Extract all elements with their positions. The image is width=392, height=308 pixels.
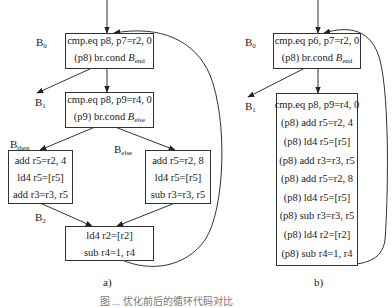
b0-to-b1-arrow-a bbox=[37, 68, 92, 93]
instr: ld4 r5=[r5] bbox=[155, 169, 201, 186]
instr: (p8) add r3=r3, r5 bbox=[279, 152, 354, 171]
instr: (p8) sub r3=r3, r5 bbox=[280, 207, 355, 226]
instr: cmp.eq p8, p9=r4, 0 bbox=[67, 91, 152, 108]
instr: cmp.eq p8, p9=r4, 0 bbox=[275, 96, 360, 115]
label-belse-a: Belse bbox=[114, 143, 132, 157]
block-b0-a: cmp.eq p8, p7=r2, 0 (p8) br.cond Bend bbox=[65, 33, 154, 69]
instr: sub r4=1, r4 bbox=[84, 244, 135, 261]
block-then-a: add r5=r2, 4 ld4 r5=[r5] add r3=r3, r5 bbox=[8, 150, 73, 204]
instr: (p8) add r5=r2, 4 bbox=[281, 114, 353, 133]
caption-a: a) bbox=[103, 276, 112, 288]
branch-instr: (p8) br.cond Bend bbox=[282, 49, 352, 70]
block-b2-a: ld4 r2=[r2] sub r4=1, r4 bbox=[65, 226, 154, 261]
block-cond-a: cmp.eq p8, p9=r4, 0 (p9) br.cond Belse bbox=[65, 92, 154, 128]
instr: add r3=r3, r5 bbox=[13, 186, 68, 203]
cond-to-then-arrow-a bbox=[40, 127, 95, 150]
instr: cmp.eq p8, p7=r2, 0 bbox=[67, 32, 152, 49]
instr: (p8) ld4 r5=[r5] bbox=[284, 133, 351, 152]
instr: ld4 r5=[r5] bbox=[17, 169, 63, 186]
label-b0-a: B0 bbox=[36, 36, 47, 50]
block-body-b: cmp.eq p8, p9=r4, 0 (p8) add r5=r2, 4 (p… bbox=[276, 93, 358, 266]
then-to-b2-arrow-a bbox=[40, 203, 92, 226]
else-to-b2-arrow-a bbox=[117, 203, 175, 226]
branch-instr: (p8) br.cond Bend bbox=[74, 49, 144, 70]
block-else-a: add r5=r2, 8 ld4 r5=[r5] sub r3=r3, r5 bbox=[145, 150, 211, 204]
label-b2-a: B2 bbox=[35, 211, 46, 225]
instr: add r5=r2, 4 bbox=[15, 152, 67, 169]
branch-instr: (p9) br.cond Belse bbox=[74, 108, 145, 129]
instr: (p8) add r5=r2, 8 bbox=[281, 170, 353, 189]
instr: (p8) sub r4=1, r4 bbox=[281, 245, 352, 264]
caption-b: b) bbox=[314, 276, 323, 288]
figure-caption: 图 ... 优化前后的循环代码对比 bbox=[100, 293, 233, 308]
block-b0-b: cmp.eq p6, p7=r2, 0 (p8) br.cond Bend bbox=[273, 33, 361, 69]
label-b1-b: B1 bbox=[245, 100, 256, 114]
label-b1-a: B1 bbox=[35, 96, 46, 110]
instr: (p8) ld4 r2=[r2] bbox=[284, 226, 351, 245]
instr: ld4 r2=[r2] bbox=[86, 227, 132, 244]
instr: (p8) ld4 r5=[r5] bbox=[284, 189, 351, 208]
instr: sub r3=r3, r5 bbox=[151, 186, 206, 203]
label-b0-b: B0 bbox=[245, 36, 256, 50]
instr: add r5=r2, 8 bbox=[152, 152, 204, 169]
instr: cmp.eq p6, p7=r2, 0 bbox=[275, 32, 360, 49]
